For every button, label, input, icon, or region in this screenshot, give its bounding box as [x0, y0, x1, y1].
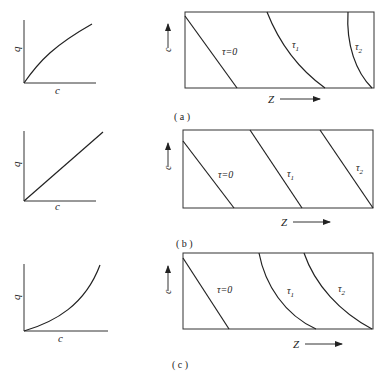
panel-b: q c τ=0 τ1 τ2 c Z ( b ) [10, 130, 373, 250]
profile-box [183, 130, 373, 208]
curve-tau1 [250, 130, 302, 208]
x-axis-label: c [55, 84, 60, 96]
curve-tau2 [320, 130, 373, 208]
isotherm-axes [24, 264, 108, 331]
panel-c: q c τ=0 τ1 τ2 c Z ( c ) [10, 253, 373, 371]
c-axis-label: c [162, 165, 173, 170]
profile-box [185, 12, 374, 88]
z-axis-label: Z [268, 93, 275, 105]
label-tau2: τ2 [356, 162, 364, 176]
c-axis-label: c [162, 47, 173, 52]
isotherm-axes [24, 20, 96, 83]
isotherm-plot-c: q c [10, 264, 108, 344]
isotherm-plot-a: q c [10, 20, 96, 96]
isotherm-axes [24, 131, 96, 201]
label-tau1: τ1 [287, 168, 294, 182]
label-tau0: τ=0 [222, 46, 237, 57]
profile-plot-b: τ=0 τ1 τ2 c Z ( b ) [162, 130, 373, 250]
profile-plot-a: τ=0 τ1 τ2 c Z ( a ) [162, 12, 374, 123]
z-axis-label: Z [281, 216, 288, 228]
label-tau0: τ=0 [218, 169, 233, 180]
isotherm-profile-figure: q c τ=0 τ1 τ2 c Z ( a ) q c [0, 0, 385, 381]
panel-a: q c τ=0 τ1 τ2 c Z ( a ) [10, 12, 374, 123]
x-axis-label: c [58, 332, 63, 344]
isotherm-curve-linear [24, 132, 103, 201]
caption-c: ( c ) [172, 359, 188, 371]
isotherm-plot-b: q c [10, 131, 103, 212]
label-tau0: τ=0 [217, 284, 232, 295]
label-tau2: τ2 [355, 41, 363, 55]
c-axis-label: c [162, 289, 173, 294]
y-axis-label: q [10, 46, 22, 52]
isotherm-curve-favorable [24, 24, 92, 83]
profile-plot-c: τ=0 τ1 τ2 c Z ( c ) [162, 253, 373, 371]
y-axis-label: q [10, 161, 22, 167]
caption-b: ( b ) [176, 238, 193, 250]
y-axis-label: q [10, 294, 22, 300]
label-tau1: τ1 [287, 285, 294, 299]
z-axis-label: Z [293, 338, 300, 350]
caption-a: ( a ) [174, 111, 190, 123]
x-axis-label: c [55, 200, 60, 212]
label-tau2: τ2 [338, 283, 346, 297]
isotherm-curve-unfavorable [24, 265, 100, 331]
label-tau1: τ1 [292, 39, 299, 53]
